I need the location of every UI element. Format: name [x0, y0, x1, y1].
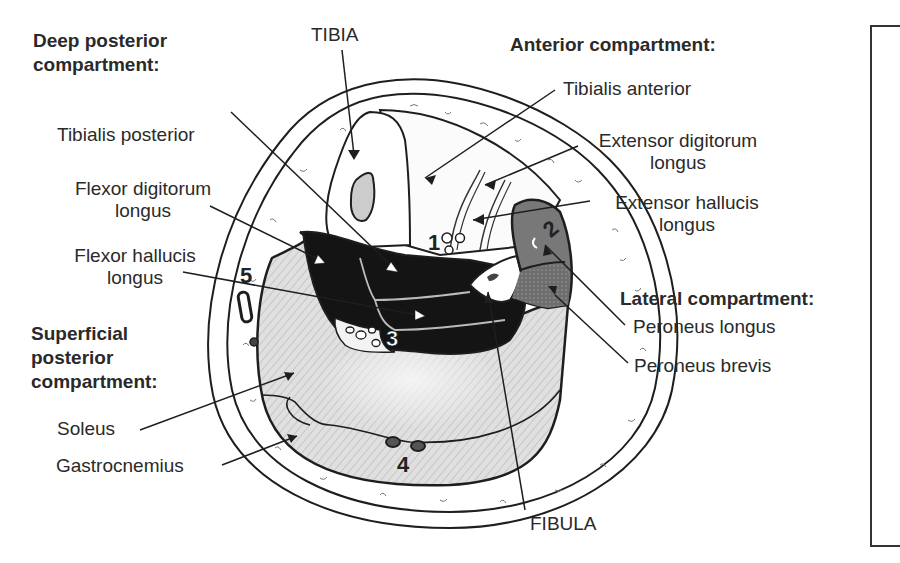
- label-flexor-digitorum-longus: Flexor digitorum longus: [58, 178, 228, 222]
- label-gastrocnemius: Gastrocnemius: [56, 455, 184, 477]
- number-3: 3: [386, 326, 398, 351]
- label-tibialis-posterior: Tibialis posterior: [57, 124, 195, 146]
- label-flexor-hallucis-longus: Flexor hallucis longus: [56, 245, 214, 289]
- label-peroneus-longus: Peroneus longus: [633, 316, 776, 338]
- label-fibula: FIBULA: [530, 513, 597, 535]
- header-lateral: Lateral compartment:: [620, 287, 814, 311]
- label-tibialis-anterior: Tibialis anterior: [563, 78, 691, 100]
- label-extensor-hallucis-longus: Extensor hallucis longus: [597, 192, 777, 236]
- header-anterior: Anterior compartment:: [510, 33, 716, 57]
- label-peroneus-brevis: Peroneus brevis: [634, 355, 771, 377]
- header-deep-posterior: Deep posterior compartment:: [33, 29, 167, 77]
- number-4: 4: [397, 452, 410, 477]
- label-tibia: TIBIA: [311, 24, 359, 46]
- label-soleus: Soleus: [57, 418, 115, 440]
- header-superficial-posterior: Superficial posterior compartment:: [31, 322, 158, 394]
- label-extensor-digitorum-longus: Extensor digitorum longus: [578, 130, 778, 174]
- number-1: 1: [428, 230, 440, 255]
